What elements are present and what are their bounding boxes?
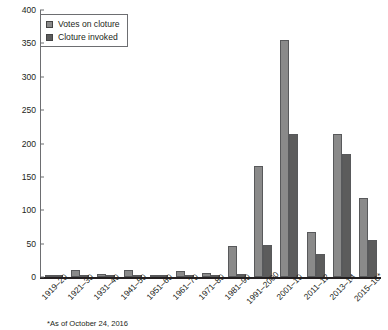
y-axis-tick-label: 50 [26,239,36,249]
y-axis-tick-label: 100 [22,205,36,215]
y-axis-tick-label: 200 [22,139,36,149]
bar-group [329,10,355,277]
bar-group [67,10,93,277]
bar-votes [124,270,133,277]
bar-group [224,10,250,277]
x-axis-label-cell: 2011–12 [303,279,329,325]
y-axis-tick-label: 150 [22,172,36,182]
y-axis-tick-mark [40,143,44,144]
bar-group [41,10,67,277]
bar-group [303,10,329,277]
bar-group [276,10,302,277]
y-axis-tick-label: 0 [31,272,36,282]
chart-legend: Votes on cloture Cloture invoked [40,14,128,47]
chart-footnote: *As of October 24, 2016 [47,319,128,328]
bar-votes [254,166,263,277]
legend-item-cloture-invoked: Cloture invoked [46,32,120,42]
legend-item-votes-on-cloture: Votes on cloture [46,19,120,29]
y-axis-tick-label: 350 [22,38,36,48]
bar-group [93,10,119,277]
bar-votes [71,270,80,277]
bar-votes [97,274,106,277]
bar-group [146,10,172,277]
bar-groups [41,10,381,277]
y-axis-tick-mark [40,76,44,77]
bar-votes [280,40,289,277]
bar-invoked [342,154,351,277]
bar-group [198,10,224,277]
bar-invoked [289,134,298,278]
legend-swatch-icon-votes [46,21,53,28]
legend-swatch-icon-invoked [46,34,53,41]
bar-votes [176,271,185,277]
x-axis-label-cell: 2015–16* [355,279,381,325]
bar-group [172,10,198,277]
bar-votes [202,273,211,277]
x-axis-label-cell: 1971–80 [198,279,224,325]
y-axis-tick-label: 400 [22,5,36,15]
y-axis: 050100150200250300350400 [0,0,36,278]
x-axis-label-cell: 2001–10 [276,279,302,325]
cloture-votes-bar-chart: 050100150200250300350400 1919–201921–301… [0,0,388,330]
bar-votes [45,275,54,277]
y-axis-tick-label: 250 [22,105,36,115]
bar-votes [333,134,342,278]
y-axis-tick-mark [40,243,44,244]
bar-votes [150,275,159,277]
x-axis-label-cell: 1991–2000 [250,279,276,325]
legend-label-votes: Votes on cloture [58,19,120,29]
y-axis-tick-mark [40,210,44,211]
bar-votes [307,232,316,277]
y-axis-tick-mark [40,277,44,278]
x-axis-label-cell: 1961–70 [172,279,198,325]
bar-group [250,10,276,277]
y-axis-tick-label: 300 [22,72,36,82]
y-axis-tick-mark [40,176,44,177]
bar-group [119,10,145,277]
x-axis-label-cell: 1951–60 [146,279,172,325]
y-axis-tick-mark [40,43,44,44]
bar-votes [228,246,237,277]
bar-votes [359,198,368,277]
bar-group [355,10,381,277]
legend-label-invoked: Cloture invoked [58,32,118,42]
y-axis-tick-mark [40,10,44,11]
x-axis-label-cell: 2013–14 [329,279,355,325]
y-axis-tick-mark [40,110,44,111]
